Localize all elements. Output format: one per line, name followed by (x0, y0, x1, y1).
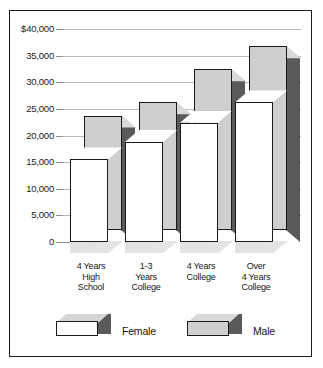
y-axis-tick-mark (56, 189, 63, 190)
y-axis-tick-label: 20,000 (2, 130, 54, 141)
y-axis-tick-label: 30,000 (2, 76, 54, 87)
x-axis-category-label: Over 4 Years College (225, 261, 287, 293)
legend-label-female: Female (122, 325, 156, 337)
x-axis-category-label: 4 Years High School (60, 261, 122, 293)
y-axis-tick-label: 5,000 (2, 209, 54, 220)
chart-legend: Female Male (10, 308, 313, 356)
chart-frame: 05,00010,00015,00020,00025,00030,00035,0… (9, 10, 312, 357)
y-axis-tick-label: 10,000 (2, 183, 54, 194)
y-axis-tick-mark (56, 109, 63, 110)
bar-female (70, 159, 108, 242)
y-axis-tick-mark (56, 215, 63, 216)
y-axis-tick-mark (56, 56, 63, 57)
y-axis-tick-mark (56, 29, 63, 30)
gridline (63, 29, 301, 30)
y-axis-tick-mark (56, 82, 63, 83)
x-axis-category-label: 4 Years College (170, 261, 232, 282)
y-axis-tick-mark (56, 136, 63, 137)
x-axis-category-label: 1-3 Years College (115, 261, 177, 293)
y-axis-tick-label: 35,000 (2, 50, 54, 61)
bar-female (125, 142, 163, 242)
bar-female (235, 102, 273, 242)
legend-label-male: Male (253, 325, 275, 337)
zero-baseline (63, 242, 70, 243)
bar-female (180, 123, 218, 242)
legend-swatch-female-icon (56, 314, 116, 342)
y-axis-tick-label: $40,000 (2, 23, 54, 34)
y-axis-tick-mark (56, 242, 63, 243)
plot-area: 05,00010,00015,00020,00025,00030,00035,0… (10, 11, 313, 358)
y-axis-tick-label: 0 (2, 236, 54, 247)
y-axis-tick-label: 15,000 (2, 156, 54, 167)
y-axis-tick-label: 25,000 (2, 103, 54, 114)
y-axis-tick-mark (56, 162, 63, 163)
legend-swatch-male-icon (187, 314, 247, 342)
